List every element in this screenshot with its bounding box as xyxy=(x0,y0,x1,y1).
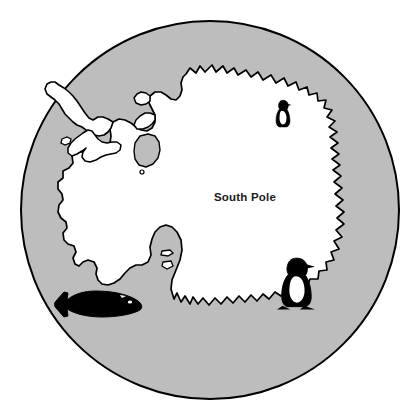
peninsula-small-island xyxy=(61,137,71,145)
map-figure: South Pole xyxy=(0,0,419,413)
south-pole-label: South Pole xyxy=(214,191,276,203)
coastal-spur-a xyxy=(134,92,150,105)
antarctica-map-svg: South Pole xyxy=(0,0,419,413)
